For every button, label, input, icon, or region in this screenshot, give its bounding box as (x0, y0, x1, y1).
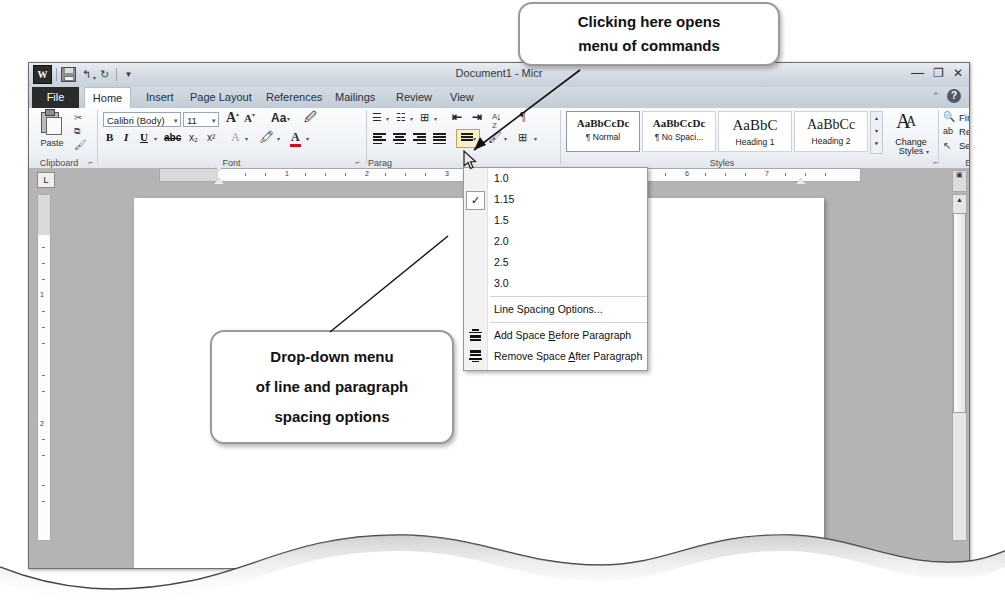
callout-clicking-here: Clicking here opens menu of commands (518, 2, 780, 66)
minimize-button[interactable]: — (911, 66, 924, 80)
screenshot-root: W ↰ ▾ ↻ ▼ Document1 - Micr — ❐ ✕ File Ho… (0, 0, 1005, 605)
replace-icon[interactable]: ab (943, 127, 953, 136)
space-after-icon (468, 349, 483, 364)
borders-icon[interactable]: ⊞ (518, 132, 527, 143)
show-formatting-marks-icon[interactable]: ¶ (520, 110, 525, 122)
align-center-icon[interactable] (390, 130, 409, 147)
strikethrough-icon[interactable]: abc (164, 133, 181, 143)
menu-item-line-spacing-options[interactable]: Line Spacing Options... (464, 299, 647, 320)
window-controls: — ❐ ✕ (911, 66, 963, 80)
tab-mailings[interactable]: Mailings (326, 87, 384, 108)
style-heading-2[interactable]: AaBbCc Heading 2 (794, 111, 868, 152)
callout-bottom-line1: Drop-down menu (270, 342, 393, 372)
font-color-icon[interactable]: A (291, 131, 300, 143)
superscript-icon[interactable]: x² (207, 133, 215, 143)
subscript-icon[interactable]: x₂ (189, 133, 198, 143)
menu-separator (490, 322, 647, 323)
menu-item-1-15[interactable]: 1.15 (464, 189, 647, 210)
justify-icon[interactable] (430, 130, 449, 147)
group-clipboard: Paste ✂ ⧉ 🖌 Clipboard ⌐ (29, 108, 97, 168)
ribbon: Paste ✂ ⧉ 🖌 Clipboard ⌐ Calibri (Body) ▾… (29, 108, 969, 169)
bold-icon[interactable]: B (106, 132, 113, 143)
style-heading-1[interactable]: AaBbC Heading 1 (718, 111, 792, 152)
close-button[interactable]: ✕ (953, 66, 963, 80)
change-case-icon[interactable]: Aa (271, 112, 286, 124)
right-indent-marker[interactable] (796, 178, 806, 184)
select-label[interactable]: Select (959, 140, 970, 151)
highlight-icon[interactable]: 🖍 (259, 131, 274, 143)
tab-references[interactable]: References (257, 87, 331, 108)
group-editing: 🔍 Find ▾ ab Replace ↖ Select ▾ Editing (940, 108, 970, 168)
font-name-input[interactable]: Calibri (Body) ▾ (103, 112, 181, 127)
align-right-icon[interactable] (410, 130, 429, 147)
multilevel-list-icon[interactable]: ⊞ (420, 112, 429, 123)
menu-item-1-0[interactable]: 1.0 (464, 168, 647, 189)
ribbon-tab-bar: File Home Insert Page Layout References … (29, 87, 969, 108)
space-before-icon (468, 328, 483, 343)
underline-icon[interactable]: U (140, 132, 148, 143)
menu-item-2-0[interactable]: 2.0 (464, 231, 647, 252)
paste-icon[interactable] (39, 111, 63, 135)
menu-item-3-0[interactable]: 3.0 (464, 273, 647, 294)
scrollbar-thumb[interactable] (953, 213, 966, 413)
format-painter-icon[interactable]: 🖌 (74, 139, 87, 150)
select-icon[interactable]: ↖ (943, 141, 951, 151)
scroll-up-icon[interactable]: ▲ (953, 196, 966, 203)
bullet-list-icon[interactable]: ☰ (372, 112, 382, 123)
italic-icon[interactable]: I (124, 132, 128, 143)
find-label[interactable]: Find (959, 112, 970, 123)
text-effects-icon[interactable]: A (231, 131, 240, 143)
vertical-ruler[interactable]: 1 2 (37, 194, 51, 541)
find-icon[interactable]: 🔍 (943, 112, 955, 122)
divider (938, 110, 939, 164)
tab-insert[interactable]: Insert (137, 87, 183, 108)
decrease-indent-icon[interactable]: ⇤ (452, 111, 462, 123)
style-preview: AaBbC (719, 117, 791, 134)
line-spacing-icon[interactable]: ▾ (456, 129, 480, 148)
clipboard-dialog-launcher[interactable]: ⌐ (88, 158, 93, 167)
paste-label[interactable]: Paste (32, 138, 72, 148)
tab-home[interactable]: Home (84, 87, 131, 108)
menu-item-2-5[interactable]: 2.5 (464, 252, 647, 273)
document-title: Document1 - Micr (29, 67, 969, 79)
more-styles-icon[interactable]: ⯆ (871, 138, 882, 151)
first-line-indent-marker[interactable] (214, 165, 224, 171)
hanging-indent-marker[interactable] (214, 178, 224, 184)
style-normal[interactable]: AaBbCcDc ¶ Normal (566, 111, 640, 152)
menu-item-remove-space-after[interactable]: Remove Space After Paragraph (464, 346, 647, 367)
scroll-down-icon[interactable]: ▾ (871, 125, 882, 138)
vertical-scrollbar[interactable]: ▲ (952, 194, 967, 541)
menu-item-1-5[interactable]: 1.5 (464, 210, 647, 231)
help-icon[interactable]: ? (947, 89, 961, 103)
change-styles-button[interactable]: A A Change Styles ▾ ⌐ (884, 108, 938, 168)
shrink-font-icon[interactable]: A (244, 113, 252, 124)
tab-selector-button[interactable]: L (37, 172, 55, 188)
tab-view[interactable]: View (441, 87, 483, 108)
tab-review[interactable]: Review (387, 87, 441, 108)
menu-item-add-space-before[interactable]: Add Space Before Paragraph (464, 325, 647, 346)
divider (366, 110, 367, 164)
tab-page-layout[interactable]: Page Layout (181, 87, 261, 108)
font-color-swatch (290, 144, 301, 147)
numbered-list-icon[interactable]: ☷ (396, 112, 406, 123)
increase-indent-icon[interactable]: ⇥ (472, 111, 482, 123)
font-size-value: 11 (187, 115, 197, 126)
copy-icon[interactable]: ⧉ (74, 126, 80, 137)
chevron-down-icon[interactable]: ▾ (212, 113, 216, 128)
replace-label[interactable]: Replace (959, 126, 970, 137)
shading-icon[interactable]: 🖌 (488, 132, 502, 143)
align-left-icon[interactable] (370, 130, 389, 147)
chevron-down-icon[interactable]: ▾ (174, 113, 178, 128)
collapse-ribbon-icon[interactable]: ⌃ (932, 91, 940, 101)
select-browse-object-button[interactable]: ▣ (952, 170, 967, 192)
font-size-input[interactable]: 11 ▾ (183, 112, 219, 127)
style-no-spacing[interactable]: AaBbCcDc ¶ No Spaci... (642, 111, 716, 152)
line-spacing-dropdown-menu[interactable]: 1.0 ✓ 1.15 1.5 2.0 2.5 3.0 Line Spacing … (463, 167, 648, 371)
cut-icon[interactable]: ✂ (74, 112, 82, 123)
grow-font-icon[interactable]: A (226, 111, 236, 125)
styles-gallery-scroll[interactable]: ▴ ▾ ⯆ (870, 111, 883, 154)
clear-formatting-icon[interactable]: 🖉 (304, 111, 317, 123)
scroll-up-icon[interactable]: ▴ (871, 112, 882, 125)
restore-button[interactable]: ❐ (933, 66, 944, 80)
tab-file[interactable]: File (32, 87, 79, 108)
